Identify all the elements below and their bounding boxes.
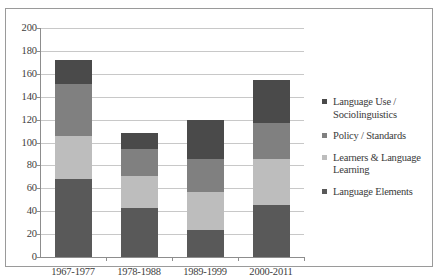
y-axis-tick-label: 200 [9, 23, 37, 33]
bar-segment[interactable] [187, 192, 224, 230]
bar-segment[interactable] [55, 136, 92, 180]
x-axis-tickmark [304, 257, 305, 261]
legend-item-label: Learners & Language Learning [333, 152, 434, 177]
x-axis-tick-label: 2000-2011 [238, 266, 304, 277]
legend-swatch-icon [322, 133, 327, 138]
bar-stack [55, 60, 92, 257]
bar-segment[interactable] [253, 123, 290, 158]
y-axis-tick-label: 60 [9, 183, 37, 193]
bar-segment[interactable] [121, 176, 158, 208]
y-axis-tick-label: 80 [9, 160, 37, 170]
bar-stack [253, 80, 290, 257]
legend-item[interactable]: Learners & Language Learning [322, 152, 434, 177]
bar-segment[interactable] [187, 120, 224, 159]
stacked-bar-chart: 020406080100120140160180200 1967-1977197… [0, 0, 439, 277]
bar-group[interactable] [187, 120, 224, 257]
bars-layer [40, 20, 304, 265]
bar-segment[interactable] [55, 84, 92, 136]
plot-wrapper: 020406080100120140160180200 1967-1977197… [9, 20, 309, 265]
bar-segment[interactable] [187, 230, 224, 257]
y-axis-tick-label: 100 [9, 138, 37, 148]
bar-segment[interactable] [121, 208, 158, 257]
bar-stack [187, 120, 224, 257]
y-axis-tick-label: 40 [9, 206, 37, 216]
y-axis-tick-label: 20 [9, 229, 37, 239]
chart-legend: Language Use / SociolinguisticsPolicy / … [322, 96, 434, 207]
bar-segment[interactable] [253, 80, 290, 124]
bar-segment[interactable] [121, 149, 158, 175]
bar-segment[interactable] [55, 60, 92, 84]
y-axis-tick-label: 0 [9, 252, 37, 262]
legend-item-label: Language Elements [333, 186, 434, 199]
y-axis-tick-label: 140 [9, 92, 37, 102]
bar-stack [121, 133, 158, 257]
bar-segment[interactable] [253, 205, 290, 257]
y-axis-tick-label: 160 [9, 69, 37, 79]
legend-item-label: Policy / Standards [333, 130, 434, 143]
bar-segment[interactable] [187, 159, 224, 192]
plot-area [40, 20, 304, 265]
y-axis-tick-label: 120 [9, 115, 37, 125]
legend-swatch-icon [322, 189, 327, 194]
x-axis-tick-label: 1989-1999 [172, 266, 238, 277]
legend-item-label: Language Use / Sociolinguistics [333, 96, 434, 121]
x-axis-tick-label: 1978-1988 [106, 266, 172, 277]
legend-item[interactable]: Policy / Standards [322, 130, 434, 143]
bar-group[interactable] [121, 133, 158, 257]
bar-segment[interactable] [55, 179, 92, 257]
x-axis-tick-label: 1967-1977 [40, 266, 106, 277]
legend-item[interactable]: Language Use / Sociolinguistics [322, 96, 434, 121]
y-axis-tick-label: 180 [9, 46, 37, 56]
legend-swatch-icon [322, 99, 327, 104]
bar-group[interactable] [253, 80, 290, 257]
bar-group[interactable] [55, 60, 92, 257]
bar-segment[interactable] [121, 133, 158, 149]
x-axis-tick-labels: 1967-19771978-19881989-19992000-2011 [40, 266, 304, 277]
bar-segment[interactable] [253, 159, 290, 206]
legend-item[interactable]: Language Elements [322, 186, 434, 199]
y-axis-tick-labels: 020406080100120140160180200 [9, 20, 37, 265]
legend-swatch-icon [322, 155, 327, 160]
